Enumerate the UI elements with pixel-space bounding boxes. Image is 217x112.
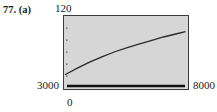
plot-area [0, 0, 217, 112]
y-axis-ticks [66, 28, 68, 77]
data-curve [65, 32, 186, 75]
